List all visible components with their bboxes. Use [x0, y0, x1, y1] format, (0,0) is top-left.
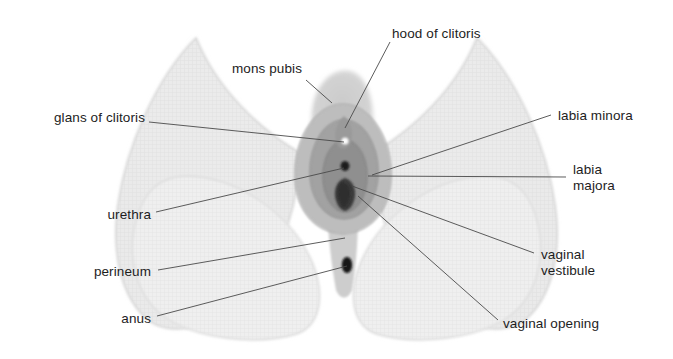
- label-vaginal-vestibule: vaginal vestibule: [541, 247, 656, 279]
- glans-clitoris: [341, 137, 348, 144]
- label-urethra: urethra: [78, 207, 151, 223]
- body-silhouette: [116, 38, 557, 340]
- label-perineum: perineum: [78, 264, 151, 280]
- label-vaginal-opening: vaginal opening: [503, 316, 643, 332]
- label-hood-of-clitoris: hood of clitoris: [392, 26, 512, 42]
- label-anus: anus: [95, 311, 151, 327]
- label-mons-pubis: mons pubis: [222, 61, 302, 77]
- urethral-opening: [341, 161, 350, 171]
- label-glans-of-clitoris: glans of clitoris: [35, 110, 145, 126]
- label-labia-majora: labia majora: [573, 162, 668, 194]
- anus-opening: [342, 257, 352, 273]
- label-labia-minora: labia minora: [558, 108, 668, 124]
- anatomy-figure: glans of clitoris mons pubis hood of cli…: [0, 0, 673, 359]
